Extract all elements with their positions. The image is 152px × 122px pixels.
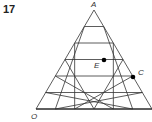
- grid-line: [55, 27, 84, 110]
- point-label-c: C: [138, 68, 144, 77]
- grid-line: [104, 27, 133, 110]
- vertex-label-a: A: [90, 0, 96, 9]
- point-label-e: E: [94, 61, 100, 70]
- point-c-dot: [131, 75, 136, 80]
- point-e-dot: [102, 58, 107, 63]
- vertex-label-o: O: [31, 112, 37, 121]
- grid-lines: [36, 10, 152, 109]
- triangular-grid-diagram: A O E C: [0, 0, 152, 122]
